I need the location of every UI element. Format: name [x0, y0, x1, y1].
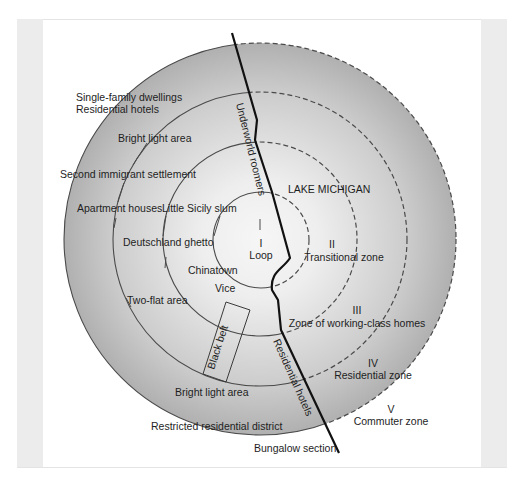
label-vice: Vice — [215, 282, 235, 294]
zone-2-numeral: II — [329, 238, 335, 250]
zone-3-name: Zone of working-class homes — [289, 317, 426, 329]
label-deutschland: Deutschland ghetto — [123, 236, 214, 248]
zone-5-numeral: V — [387, 403, 394, 415]
label-bright-light-bottom: Bright light area — [175, 386, 249, 398]
zone-1-numeral: I — [260, 237, 263, 249]
concentric-zone-diagram: Single-family dwellings Residential hote… — [0, 0, 517, 482]
label-chinatown: Chinatown — [188, 264, 238, 276]
label-apartment-houses: Apartment houses — [77, 202, 162, 214]
label-lake-michigan: LAKE MICHIGAN — [288, 183, 370, 195]
label-two-flat: Two-flat area — [127, 294, 188, 306]
label-little-sicily: Little Sicily slum — [162, 202, 237, 214]
zone-3-numeral: III — [353, 304, 362, 316]
label-single-family: Single-family dwellings — [76, 91, 182, 103]
label-bright-light-top: Bright light area — [118, 132, 192, 144]
zone-4-numeral: IV — [368, 357, 378, 369]
zone-1-name: Loop — [249, 249, 273, 261]
label-bungalow: Bungalow section — [254, 442, 336, 454]
zone-5-name: Commuter zone — [354, 415, 429, 427]
label-residential-hotels-top: Residential hotels — [76, 103, 159, 115]
label-restricted: Restricted residential district — [151, 420, 282, 432]
zone-4-name: Residential zone — [334, 369, 412, 381]
label-second-immigrant: Second immigrant settlement — [60, 168, 196, 180]
zone-2-name: Transitional zone — [304, 251, 384, 263]
